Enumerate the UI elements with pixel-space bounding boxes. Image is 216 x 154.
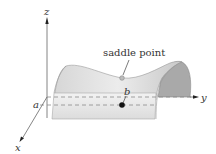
saddle-surface <box>52 61 191 119</box>
z-axis-label: z <box>43 6 50 17</box>
saddle-point-label: saddle point <box>103 47 165 58</box>
saddle-point-leader-line <box>123 60 129 75</box>
saddle-point-marker <box>120 76 125 81</box>
a-label: a <box>33 99 39 110</box>
y-axis-label: y <box>200 92 207 103</box>
point-a-b <box>119 102 125 108</box>
y-axis <box>190 95 199 98</box>
saddle-surface-diagram: z y x a saddle point b <box>0 0 216 154</box>
z-axis <box>45 17 48 118</box>
x-axis-label: x <box>15 142 21 153</box>
b-label: b <box>124 86 130 97</box>
